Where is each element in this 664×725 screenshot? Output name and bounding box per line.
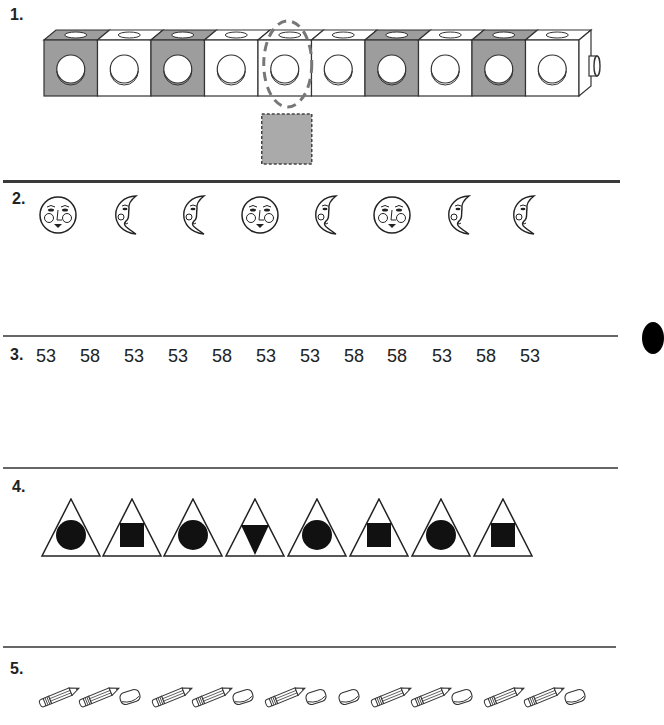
moon-face-icon	[514, 196, 534, 234]
eraser-icon	[119, 688, 142, 706]
divider-1	[3, 180, 620, 183]
sequence-number: 58	[476, 346, 496, 367]
sequence-number: 53	[520, 346, 540, 367]
problem-1-number: 1.	[10, 6, 23, 24]
sun-face-icon	[374, 197, 410, 233]
cube-train-drawing	[40, 18, 620, 168]
answer-box	[262, 114, 312, 164]
sequence-number: 53	[36, 346, 56, 367]
eraser-icon	[305, 688, 328, 706]
moon-face-icon	[316, 196, 336, 234]
pencil-icon	[79, 685, 121, 708]
divider-2	[3, 335, 618, 337]
pencil-icon	[39, 685, 81, 708]
sequence-number: 53	[432, 346, 452, 367]
eraser-icon	[451, 688, 474, 706]
problem-3-number: 3.	[10, 346, 23, 364]
divider-4	[3, 646, 616, 648]
cube-train	[40, 18, 620, 168]
problem-4-number: 4.	[12, 478, 25, 496]
supplies-sequence	[38, 680, 598, 712]
sun-face-icon	[242, 197, 278, 233]
pencil-icon	[152, 685, 194, 708]
triangle-inverted-triangle-icon	[226, 499, 284, 556]
pencil-icon	[484, 685, 526, 708]
moon-face-icon	[449, 196, 469, 234]
margin-dot	[642, 322, 664, 354]
sequence-number: 53	[256, 346, 276, 367]
triangle-circle-icon	[412, 499, 470, 556]
pencil-icon	[265, 685, 307, 708]
divider-3	[3, 467, 618, 469]
triangle-sequence	[40, 498, 540, 560]
eraser-icon	[338, 688, 361, 706]
sequence-number: 53	[300, 346, 320, 367]
sequence-number: 58	[80, 346, 100, 367]
eraser-icon	[232, 688, 255, 706]
sequence-number: 58	[344, 346, 364, 367]
triangle-square-icon	[350, 499, 408, 556]
sequence-number: 53	[168, 346, 188, 367]
pencil-icon	[192, 685, 234, 708]
moon-face-icon	[184, 196, 204, 234]
triangle-circle-icon	[164, 499, 222, 556]
triangle-square-icon	[103, 499, 161, 556]
pencil-icon	[411, 685, 453, 708]
sequence-number: 53	[124, 346, 144, 367]
face-sequence	[36, 193, 576, 243]
sun-face-icon	[40, 197, 76, 233]
eraser-icon	[564, 688, 587, 706]
sequence-number: 58	[387, 346, 407, 367]
pencil-icon	[524, 685, 566, 708]
triangle-square-icon	[474, 499, 532, 556]
pencil-icon	[371, 685, 413, 708]
triangle-circle-icon	[42, 499, 100, 556]
sequence-number: 58	[212, 346, 232, 367]
problem-2-number: 2.	[12, 190, 25, 208]
triangle-circle-icon	[288, 499, 346, 556]
problem-5-number: 5.	[10, 660, 23, 678]
moon-face-icon	[116, 196, 136, 234]
